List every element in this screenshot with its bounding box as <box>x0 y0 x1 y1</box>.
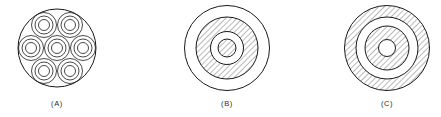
diagram-b-group <box>185 6 270 91</box>
diagram-b-core-hatched <box>218 39 236 57</box>
figure-screenshot: (A) (B) (C) <box>0 0 441 117</box>
cross-section-figure-group: (A) (B) (C) <box>0 0 441 117</box>
diagram-a-group <box>18 9 96 87</box>
caption-c: (C) <box>381 100 393 108</box>
caption-a: (A) <box>51 100 63 108</box>
diagram-c-group <box>345 6 430 91</box>
diagram-a-outer-circle <box>18 9 96 87</box>
caption-b: (B) <box>221 100 233 108</box>
diagram-c-core-plain <box>379 40 396 57</box>
